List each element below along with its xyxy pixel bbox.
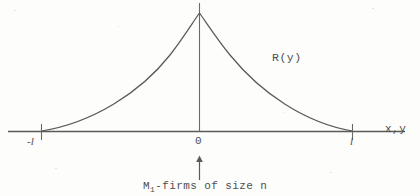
curve-label-ry: R(y) <box>272 52 302 64</box>
axis-label-x: x,y <box>385 124 406 135</box>
figure-graphic <box>0 0 420 196</box>
tick-label-l: l <box>350 136 353 147</box>
tick-label-minus-l: -l <box>27 136 34 147</box>
tick-label-zero: 0 <box>195 136 202 147</box>
caption-prefix: M <box>143 180 150 192</box>
figure-caption: M1-firms of size n <box>143 181 267 192</box>
curve-ry-right-branch <box>200 13 353 131</box>
curve-ry-left-branch <box>42 13 200 131</box>
figure-canvas: -l 0 l x,y R(y) M1-firms of size n <box>0 0 420 196</box>
caption-arrow-head-icon <box>196 156 203 163</box>
caption-suffix: -firms of size n <box>155 180 267 192</box>
